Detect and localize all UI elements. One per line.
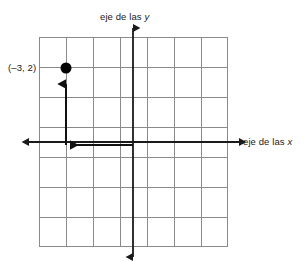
x-axis-label: eje de las x: [243, 136, 292, 147]
y-axis-label-prefix: eje de las: [100, 11, 144, 22]
x-axis-label-prefix: eje de las: [243, 136, 287, 147]
y-axis-label: eje de las y: [100, 11, 149, 22]
y-axis-label-variable: y: [144, 11, 149, 22]
plotted-point: [61, 63, 72, 74]
coordinate-plane-svg: [0, 0, 306, 262]
plotted-point-label: (–3, 2): [8, 62, 36, 73]
x-axis-label-variable: x: [287, 136, 292, 147]
coordinate-plane-figure: eje de las y eje de las x (–3, 2): [0, 0, 306, 262]
